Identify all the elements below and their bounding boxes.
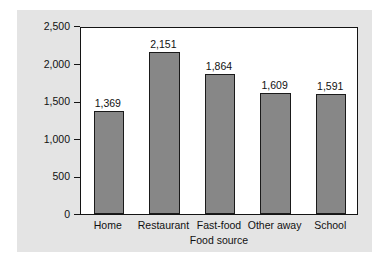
plot-area <box>80 27 358 215</box>
y-axis-tick-label: 2,000 <box>8 58 70 70</box>
y-axis-tick-label: 500 <box>8 170 70 182</box>
bar[interactable] <box>94 111 124 214</box>
y-axis-tick-label: 1,000 <box>8 133 70 145</box>
bar[interactable] <box>149 52 179 214</box>
bar[interactable] <box>205 74 235 214</box>
y-axis-tick-label: 2,500 <box>8 20 70 32</box>
y-axis-tick-label: 0 <box>8 208 70 220</box>
bar-chart-figure: Milligrams of sodium per 1,000 calories … <box>0 0 386 261</box>
bar[interactable] <box>316 94 346 214</box>
bars-group <box>81 28 357 214</box>
bar-value-label: 1,591 <box>300 80 360 92</box>
x-axis-title: Food source <box>80 234 358 246</box>
bar-value-label: 2,151 <box>133 38 193 50</box>
bar-value-label: 1,864 <box>189 60 249 72</box>
plot-inner <box>81 28 357 214</box>
bar[interactable] <box>260 93 290 214</box>
bar-value-label: 1,369 <box>78 97 138 109</box>
x-axis-tick-label: School <box>290 219 370 231</box>
bar-value-label: 1,609 <box>245 79 305 91</box>
y-axis-tick-label: 1,500 <box>8 95 70 107</box>
